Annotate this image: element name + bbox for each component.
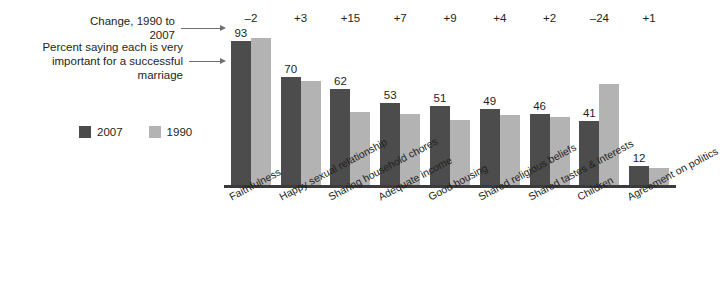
bar-value-label: 62: [330, 75, 350, 87]
change-value: –2: [223, 12, 279, 24]
bar-group: 12: [629, 30, 669, 185]
arrow-right-icon: [189, 57, 226, 66]
legend-item-1990: 1990: [149, 126, 193, 138]
bar-1990: [251, 38, 271, 185]
bar-pair: [480, 30, 520, 185]
bar-pair: [281, 30, 321, 185]
bar-2007: [231, 41, 251, 185]
bar-1990: [599, 84, 619, 185]
change-value: +1: [621, 12, 677, 24]
bar-value-label: 41: [579, 107, 599, 119]
bar-value-label: 53: [380, 89, 400, 101]
legend-item-2007: 2007: [79, 126, 123, 138]
bar-value-label: 49: [480, 95, 500, 107]
chart-legend: 20071990: [79, 126, 192, 138]
change-annotation: Change, 1990 to 2007: [74, 14, 226, 42]
change-value: +3: [273, 12, 329, 24]
change-value: +2: [522, 12, 578, 24]
percent-annotation-label: Percent saying each is very important fo…: [14, 40, 183, 82]
bar-group: 49: [480, 30, 520, 185]
change-values-row: –2+3+15+7+9+4+2–24+1: [226, 12, 674, 28]
legend-label: 2007: [97, 126, 123, 138]
change-value: +4: [472, 12, 528, 24]
change-value: –24: [571, 12, 627, 24]
legend-label: 1990: [167, 126, 193, 138]
legend-swatch-1990: [149, 126, 161, 138]
bar-group: 70: [281, 30, 321, 185]
change-value: +7: [372, 12, 428, 24]
category-axis-labels: FaithfulnessHappy sexual relationshipSha…: [0, 188, 679, 298]
bar-value-label: 70: [281, 63, 301, 75]
bar-2007: [281, 77, 301, 186]
change-annotation-label: Change, 1990 to 2007: [74, 14, 175, 42]
change-value: +9: [422, 12, 478, 24]
bar-value-label: 93: [231, 27, 251, 39]
change-value: +15: [322, 12, 378, 24]
bar-group: 93: [231, 30, 271, 185]
bar-pair: [231, 30, 271, 185]
bar-value-label: 51: [430, 92, 450, 104]
bar-value-label: 12: [629, 152, 649, 164]
arrow-right-icon: [181, 24, 226, 33]
percent-annotation: Percent saying each is very important fo…: [14, 40, 226, 82]
legend-swatch-2007: [79, 126, 91, 138]
bar-value-label: 46: [530, 100, 550, 112]
